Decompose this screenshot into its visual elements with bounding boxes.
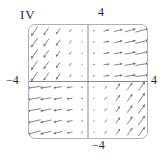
- direction-field-figure: IV 4 −4 4 −4: [0, 0, 165, 162]
- axis-tick-label-right: 4: [151, 73, 157, 88]
- vector-field-plot: [29, 25, 147, 138]
- axis-tick-label-bottom: −4: [92, 138, 105, 153]
- panel-label: IV: [20, 7, 36, 23]
- axis-tick-label-left: −4: [6, 73, 19, 88]
- plot-frame: [28, 24, 148, 139]
- axis-tick-label-top: 4: [98, 5, 104, 20]
